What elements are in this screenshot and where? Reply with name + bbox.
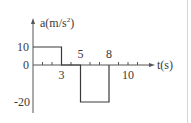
y-tick-10: 10	[17, 40, 29, 54]
right-border-divider	[187, 0, 188, 123]
x-axis-arrow-icon	[149, 63, 155, 67]
y-axis-label: a(m/s2)	[40, 16, 74, 30]
x-tick-5: 5	[78, 47, 84, 61]
x-tick-10: 10	[122, 68, 134, 82]
acceleration-time-chart: a(m/s2) t(s) 10 0 -20 3 5 8 10	[0, 0, 191, 123]
x-tick-3: 3	[59, 68, 65, 82]
x-axis-label: t(s)	[157, 58, 173, 72]
x-tick-8: 8	[106, 47, 112, 61]
y-axis-arrow-icon	[31, 18, 35, 24]
acceleration-series	[33, 47, 109, 102]
y-tick-0: 0	[23, 58, 29, 72]
y-tick-neg20: -20	[14, 95, 30, 109]
